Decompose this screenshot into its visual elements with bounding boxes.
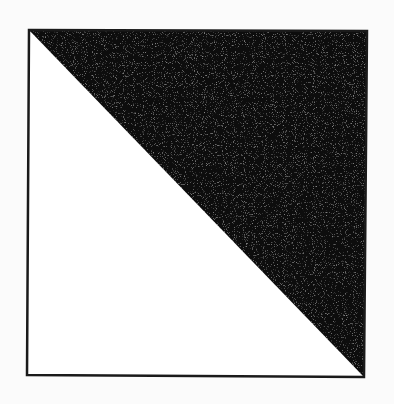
diagonal-square-figure — [0, 0, 394, 404]
